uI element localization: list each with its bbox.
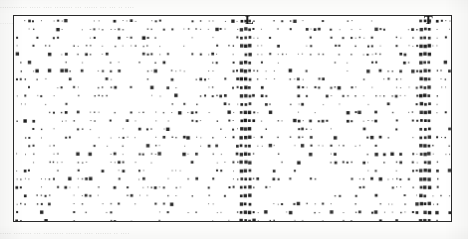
dot-scatter-canvas	[14, 16, 451, 221]
ghost-bleedthrough-top: ............ ..... .... ........ ... ...…	[0, 1, 468, 12]
column-label-l: L	[245, 13, 254, 26]
plot-frame	[13, 15, 452, 222]
figure-root: ............ ..... .... ........ ... ...…	[0, 0, 468, 239]
ghost-bleedthrough-bottom: ..... ........ ... ......... ....... ...…	[0, 227, 468, 239]
column-label-t: T	[424, 13, 433, 26]
